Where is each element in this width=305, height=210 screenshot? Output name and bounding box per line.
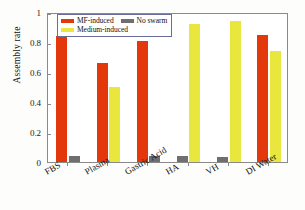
y-axis-ticks: 00.20.40.60.81 <box>0 13 45 163</box>
bar <box>56 36 67 162</box>
y-tick-mark <box>48 14 51 15</box>
legend-swatch-medium-induced <box>61 28 74 32</box>
legend-entry-medium-induced: Medium-induced <box>61 26 128 35</box>
y-tick-label: 0.8 <box>30 38 41 48</box>
bar <box>137 41 148 163</box>
bar <box>177 156 188 162</box>
x-axis-ticks: FBSPlasmaGastric AcidHAVHDI Water <box>47 163 288 209</box>
legend-label-medium-induced: Medium-induced <box>77 26 128 35</box>
x-tick-mark <box>228 163 229 166</box>
y-tick-mark <box>48 44 51 45</box>
bar <box>69 156 80 162</box>
bar <box>230 21 241 162</box>
bar <box>109 87 120 162</box>
x-tick-mark <box>67 163 68 166</box>
y-tick-mark <box>48 104 51 105</box>
bar <box>257 35 268 163</box>
legend-swatch-no-swarm <box>121 19 134 23</box>
y-tick-label: 1 <box>37 8 41 18</box>
y-tick-label: 0.6 <box>30 68 41 78</box>
y-tick-mark <box>48 134 51 135</box>
chart-legend: MF-induced No swarm Medium-induced <box>57 14 172 37</box>
bar <box>189 24 200 162</box>
x-tick-label: VH <box>204 161 220 176</box>
figure-canvas: Assembly rate 00.20.40.60.81 MF-induced … <box>0 0 305 210</box>
y-tick-label: 0.2 <box>30 128 41 138</box>
y-tick-label: 0 <box>37 158 41 168</box>
x-tick-mark <box>188 163 189 166</box>
legend-label-no-swarm: No swarm <box>137 17 168 26</box>
y-tick-label: 0.4 <box>30 98 41 108</box>
y-tick-mark <box>48 74 51 75</box>
x-tick-label: FBS <box>43 160 62 177</box>
legend-row-2: Medium-induced <box>61 26 167 35</box>
bar <box>217 157 228 162</box>
legend-swatch-mf-induced <box>61 19 74 23</box>
bar <box>97 63 108 162</box>
x-tick-label: HA <box>164 161 180 176</box>
bar <box>270 51 281 162</box>
